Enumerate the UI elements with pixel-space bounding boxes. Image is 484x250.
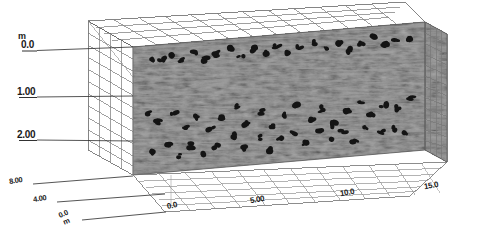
wireframe-left-wall: [88, 21, 133, 175]
figure-canvas: m 0.0 1.00 2.00 8.00 4.00 0.0 m 0.0 5.00…: [0, 0, 484, 250]
seismic-data-panel: [125, 15, 435, 185]
vertical-tick-2: 2.00: [17, 130, 35, 140]
depth-tick-1: 4.00: [33, 194, 47, 203]
depth-tick-0: 8.00: [9, 176, 23, 185]
vertical-tick-1: 1.00: [17, 87, 35, 97]
vertical-tick-0: 0.0: [21, 40, 34, 50]
three-d-plot: [0, 0, 484, 250]
